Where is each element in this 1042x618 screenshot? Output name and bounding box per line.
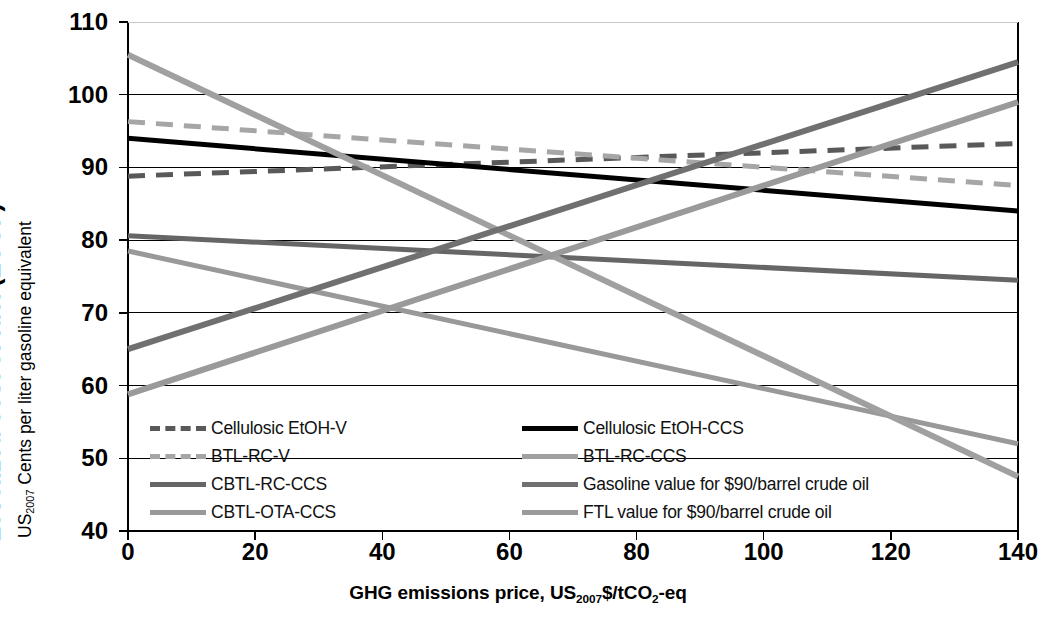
series-line-ftl-value-for-90-barrel-crude-oil (128, 102, 1018, 394)
legend-label-cellulosic-etoh-v: Cellulosic EtOH-V (211, 418, 347, 439)
legend-item-gasoline-value-for-90-barrel-crude-oil[interactable]: Gasoline value for $90/barrel crude oil (522, 470, 1000, 498)
chart-legend: Cellulosic EtOH-VCellulosic EtOH-CCSBTL-… (150, 414, 1000, 526)
legend-label-ftl-value-for-90-barrel-crude-oil: FTL value for $90/barrel crude oil (583, 502, 832, 523)
x-axis-title: GHG emissions price, US2007$/tCO2-eq (0, 582, 1036, 604)
legend-swatch-cbtl-ota-ccs (150, 510, 206, 515)
legend-label-btl-rc-ccs: BTL-RC-CCS (583, 446, 686, 467)
x-axis-title-part3: -eq (659, 582, 687, 603)
legend-item-btl-rc-v[interactable]: BTL-RC-V (150, 442, 522, 470)
legend-item-cbtl-ota-ccs[interactable]: CBTL-OTA-CCS (150, 498, 522, 526)
legend-item-cellulosic-etoh-v[interactable]: Cellulosic EtOH-V (150, 414, 522, 442)
legend-item-ftl-value-for-90-barrel-crude-oil[interactable]: FTL value for $90/barrel crude oil (522, 498, 1000, 526)
legend-swatch-btl-rc-ccs (522, 454, 578, 459)
x-axis-title-part1: GHG emissions price, US (349, 582, 576, 603)
legend-label-btl-rc-v: BTL-RC-V (211, 446, 290, 467)
x-axis-title-part2: $/tCO (602, 582, 652, 603)
legend-item-cellulosic-etoh-ccs[interactable]: Cellulosic EtOH-CCS (522, 414, 1000, 442)
legend-label-cellulosic-etoh-ccs: Cellulosic EtOH-CCS (583, 418, 744, 439)
series-line-cbtl-rc-ccs (128, 236, 1018, 280)
legend-item-cbtl-rc-ccs[interactable]: CBTL-RC-CCS (150, 470, 522, 498)
legend-label-cbtl-rc-ccs: CBTL-RC-CCS (211, 474, 327, 495)
legend-item-btl-rc-ccs[interactable]: BTL-RC-CCS (522, 442, 1000, 470)
legend-label-cbtl-ota-ccs: CBTL-OTA-CCS (211, 502, 336, 523)
legend-swatch-ftl-value-for-90-barrel-crude-oil (522, 510, 578, 515)
x-axis-title-sub1: 2007 (576, 592, 602, 605)
legend-swatch-cbtl-rc-ccs (150, 482, 206, 487)
legend-swatch-btl-rc-v (150, 454, 206, 459)
x-axis-title-sub2: 2 (652, 592, 658, 605)
series-line-gasoline-value-for-90-barrel-crude-oil (128, 62, 1018, 349)
legend-swatch-cellulosic-etoh-ccs (522, 426, 578, 431)
legend-label-gasoline-value-for-90-barrel-crude-oil: Gasoline value for $90/barrel crude oil (583, 474, 869, 495)
legend-swatch-gasoline-value-for-90-barrel-crude-oil (522, 482, 578, 487)
legend-swatch-cellulosic-etoh-v (150, 426, 206, 431)
